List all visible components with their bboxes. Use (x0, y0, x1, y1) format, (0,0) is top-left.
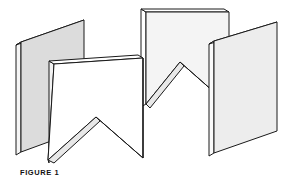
back-left-panel-side-edge (16, 42, 21, 155)
front-right-panel-side-edge (209, 41, 214, 156)
figure-illustration (0, 0, 292, 185)
front-right-panel-face (214, 22, 277, 153)
figure-caption: FIGURE 1 (20, 168, 59, 177)
figure-container: FIGURE 1 (0, 0, 292, 185)
